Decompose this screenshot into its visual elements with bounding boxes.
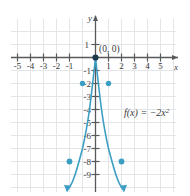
origin-label: (0, 0): [99, 44, 120, 55]
point-marker: [106, 81, 111, 86]
point-marker: [67, 159, 73, 165]
y-tick-label: -8: [84, 157, 92, 167]
point-marker: [80, 81, 85, 86]
x-tick-label: -1: [66, 61, 74, 71]
y-tick-label: -7: [84, 144, 92, 154]
y-tick-label: -9: [84, 170, 92, 180]
y-axis-arrow-icon: [93, 15, 98, 21]
graph-canvas: -5 -4 -3 -2 -1 1 2 3 4 5 1 -1 -2 -3 -4 -…: [0, 0, 190, 196]
y-axis: [92, 15, 100, 192]
x-tick-label: -2: [53, 61, 61, 71]
y-axis-name: y: [87, 13, 92, 23]
y-tick-label: 1: [85, 40, 90, 50]
x-axis-arrow-icon: [172, 55, 178, 60]
vertex-point-marker: [92, 54, 98, 60]
x-tick-label: -4: [27, 61, 35, 71]
parabola-figure: -5 -4 -3 -2 -1 1 2 3 4 5 1 -1 -2 -3 -4 -…: [0, 0, 190, 196]
y-tick-label: -1: [84, 66, 92, 76]
x-tick-label: 5: [158, 61, 163, 71]
x-tick-label: 4: [145, 61, 150, 71]
x-tick-label: -3: [40, 61, 48, 71]
x-tick-label: 3: [132, 61, 137, 71]
point-marker: [119, 159, 125, 165]
x-tick-label: -5: [14, 61, 22, 71]
x-axis-name: x: [173, 62, 178, 72]
x-tick-label: 2: [119, 61, 124, 71]
function-label: f(x) = −2x2: [124, 107, 170, 120]
x-tick-label: 1: [106, 61, 111, 71]
